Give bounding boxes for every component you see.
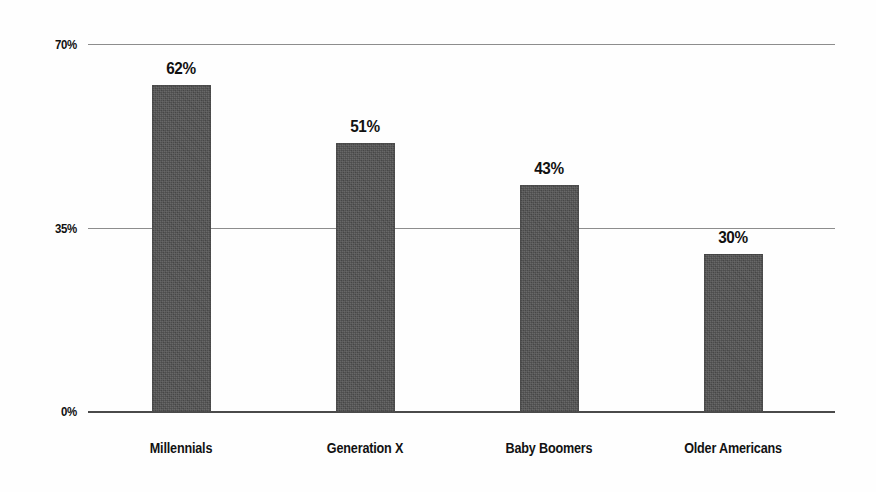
bar-group-older-americans: 30%: [653, 44, 813, 412]
y-tick-label-35: 35%: [24, 221, 77, 236]
y-tick-label-0: 0%: [24, 404, 77, 419]
bar-group-millennials: 62%: [101, 44, 261, 412]
bar-rect[interactable]: [152, 85, 211, 412]
bar-value-label: 51%: [311, 117, 419, 137]
bar-rect[interactable]: [520, 185, 579, 412]
bar-value-label: 30%: [679, 228, 787, 248]
y-tick-label-70: 70%: [24, 37, 77, 52]
bar-chart-figure: 70% 35% 0% 62% 51% 43% 30% Millennials G…: [0, 0, 876, 492]
bar-group-generation-x: 51%: [285, 44, 445, 412]
category-label-baby-boomers: Baby Boomers: [459, 440, 639, 456]
category-label-generation-x: Generation X: [275, 440, 455, 456]
category-label-millennials: Millennials: [91, 440, 271, 456]
x-axis: Millennials Generation X Baby Boomers Ol…: [88, 440, 835, 470]
bar-rect[interactable]: [704, 254, 763, 412]
bar-group-baby-boomers: 43%: [469, 44, 629, 412]
bar-rect[interactable]: [336, 143, 395, 412]
bar-value-label: 62%: [127, 59, 235, 79]
category-label-older-americans: Older Americans: [643, 440, 823, 456]
bars-layer: 62% 51% 43% 30%: [88, 44, 835, 412]
bar-value-label: 43%: [495, 159, 603, 179]
